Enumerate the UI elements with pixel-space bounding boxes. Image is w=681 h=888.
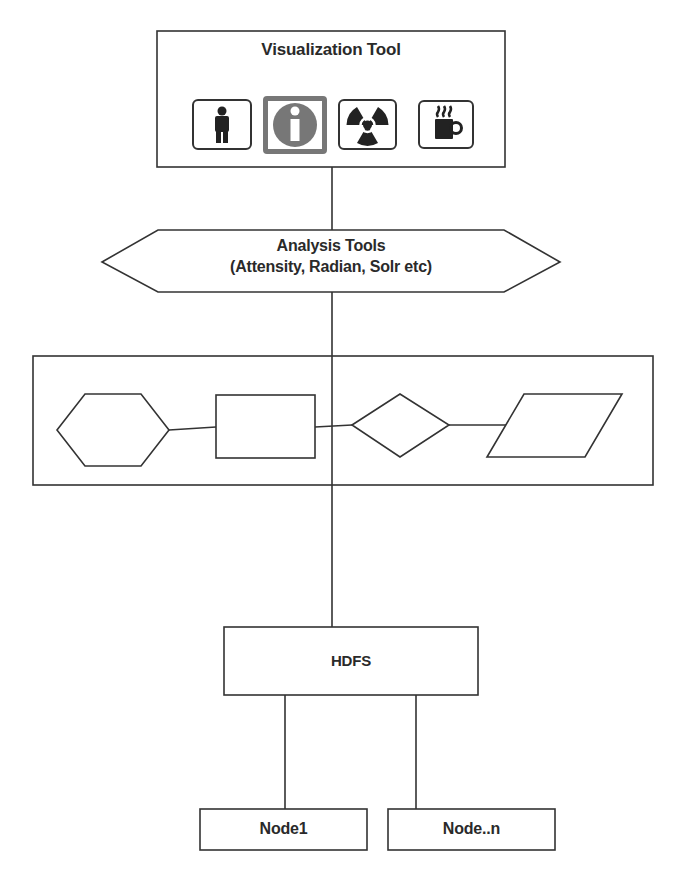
analysis-tools-label: Analysis Tools bbox=[102, 237, 560, 255]
parallelogram-shape bbox=[487, 394, 622, 457]
diamond-shape bbox=[352, 394, 449, 457]
connector-line bbox=[169, 427, 216, 430]
coffee-mug-icon-button[interactable] bbox=[418, 100, 474, 149]
rectangle-shape bbox=[216, 395, 315, 458]
connector-line bbox=[315, 425, 352, 427]
radiation-icon bbox=[340, 101, 395, 148]
node-n-label: Node..n bbox=[388, 820, 555, 838]
info-icon-button[interactable] bbox=[263, 96, 327, 154]
radiation-icon-button[interactable] bbox=[338, 99, 397, 150]
person-icon bbox=[194, 101, 250, 148]
node1-label: Node1 bbox=[200, 820, 367, 838]
analysis-tools-sublabel: (Attensity, Radian, Solr etc) bbox=[102, 258, 560, 276]
coffee-mug-icon bbox=[420, 102, 472, 147]
hexagon-shape bbox=[57, 394, 169, 466]
visualization-tool-title: Visualization Tool bbox=[157, 40, 505, 60]
hdfs-label: HDFS bbox=[224, 652, 478, 669]
info-icon bbox=[268, 101, 322, 149]
person-icon-button[interactable] bbox=[192, 99, 252, 150]
